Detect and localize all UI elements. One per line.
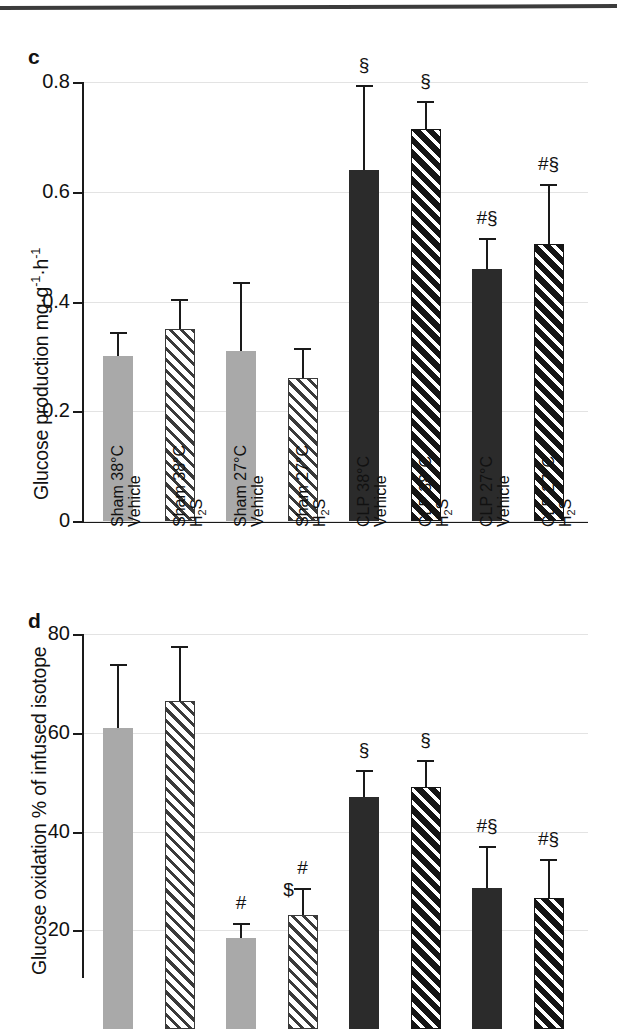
y-tick-label: 0.4 — [42, 290, 70, 313]
error-bar — [486, 846, 488, 888]
error-bar-cap — [417, 101, 434, 103]
panel-c-letter: c — [28, 46, 40, 67]
error-bar — [179, 646, 181, 700]
significance-mark: § — [359, 55, 370, 74]
x-tick-label-line2: Vehicle — [249, 445, 266, 527]
bar — [165, 701, 195, 1029]
bar — [226, 938, 256, 1029]
significance-mark-secondary: $ — [283, 880, 294, 899]
error-bar — [179, 299, 181, 329]
gridline — [84, 82, 588, 83]
gridline — [84, 192, 588, 193]
y-tick-label: 0 — [59, 509, 70, 532]
y-tick-mark — [73, 930, 82, 932]
error-bar-cap — [294, 888, 311, 890]
y-tick-label: 20 — [48, 918, 70, 941]
gridline — [84, 733, 588, 734]
x-tick-label-line2: Vehicle — [495, 456, 512, 527]
bar — [472, 888, 502, 1029]
error-bar — [548, 184, 550, 244]
y-tick-label: 0.8 — [42, 70, 70, 93]
y-tick-mark — [73, 82, 82, 84]
header-rule — [0, 4, 617, 10]
x-tick-label-line2: Vehicle — [372, 456, 389, 527]
x-tick-label-line2: H2S — [434, 456, 455, 527]
error-bar-cap — [417, 760, 434, 762]
error-bar-cap — [356, 85, 373, 87]
bar — [411, 787, 441, 1029]
error-bar-cap — [171, 299, 188, 301]
x-tick-label-line1: CLP 38°C — [417, 456, 434, 527]
significance-mark: #§ — [476, 816, 497, 835]
error-bar-cap — [233, 923, 250, 925]
error-bar — [486, 238, 488, 268]
x-tick-label-line1: Sham 38°C — [109, 445, 126, 527]
error-bar-cap — [479, 238, 496, 240]
y-tick-mark — [73, 192, 82, 194]
panel-c-y-axis-exp-1: -1 — [28, 276, 43, 287]
significance-mark: #§ — [476, 208, 497, 227]
gridline — [84, 930, 588, 931]
error-bar — [302, 348, 304, 378]
error-bar — [363, 770, 365, 797]
panel-d-plot-area: 20406080 ##$§§#§#§ — [82, 634, 590, 978]
panel-c-y-axis-label-text: Glucose production mg·g — [30, 287, 52, 500]
panel-d-y-axis-line — [82, 634, 84, 978]
y-tick-label: 0.2 — [42, 399, 70, 422]
y-tick-mark — [73, 302, 82, 304]
panel-d: d Glucose oxidation % of infused isotope… — [0, 600, 617, 978]
x-tick-label-line2: H2S — [311, 445, 332, 527]
panel-c-y-axis-label-mid: ·h — [30, 259, 52, 276]
error-bar-cap — [540, 859, 557, 861]
panel-c-y-axis-label: Glucose production mg·g-1·h-1 — [28, 248, 53, 500]
significance-mark: # — [297, 858, 308, 877]
error-bar — [425, 760, 427, 787]
bar — [103, 728, 133, 1029]
x-tick-label-line2: Vehicle — [126, 445, 143, 527]
gridline — [84, 634, 588, 635]
error-bar — [240, 923, 242, 938]
error-bar-cap — [110, 332, 127, 334]
y-tick-label: 0.6 — [42, 180, 70, 203]
bar — [349, 797, 379, 1029]
error-bar — [302, 888, 304, 915]
gridline — [84, 411, 588, 412]
significance-mark: § — [420, 71, 431, 90]
x-tick-label-line1: Sham 38°C — [171, 445, 188, 527]
x-tick-label-line1: Sham 27°C — [232, 445, 249, 527]
x-tick-label-line1: Sham 27°C — [294, 445, 311, 527]
error-bar — [425, 101, 427, 128]
significance-mark: § — [359, 740, 370, 759]
error-bar — [363, 85, 365, 170]
panel-c-y-axis-exp-2: -1 — [28, 248, 43, 259]
x-tick-label-line1: CLP 27°C — [478, 456, 495, 527]
error-bar — [117, 332, 119, 357]
y-tick-mark — [73, 411, 82, 413]
bar — [534, 898, 564, 1029]
bar — [288, 915, 318, 1029]
error-bar-cap — [110, 664, 127, 666]
error-bar-cap — [356, 770, 373, 772]
x-tick-label-line1: CLP 38°C — [355, 456, 372, 527]
error-bar-cap — [233, 282, 250, 284]
gridline — [84, 832, 588, 833]
x-tick-label-line1: CLP 27°C — [540, 456, 557, 527]
panel-d-letter: d — [28, 610, 41, 631]
panel-c: c Glucose production mg·g-1·h-1 00.20.40… — [0, 30, 617, 600]
significance-mark: #§ — [538, 829, 559, 848]
panel-c-plot-area: 00.20.40.60.8 §§#§#§ — [82, 82, 590, 523]
panel-c-y-axis-line — [82, 82, 84, 523]
error-bar-cap — [171, 646, 188, 648]
y-tick-mark — [73, 634, 82, 636]
error-bar — [117, 664, 119, 728]
y-tick-mark — [73, 521, 82, 523]
y-tick-label: 40 — [48, 820, 70, 843]
error-bar-cap — [540, 184, 557, 186]
error-bar-cap — [294, 348, 311, 350]
significance-mark: # — [236, 893, 247, 912]
error-bar-cap — [479, 846, 496, 848]
y-tick-mark — [73, 733, 82, 735]
y-tick-mark — [73, 832, 82, 834]
error-bar — [548, 859, 550, 899]
significance-mark: § — [420, 730, 431, 749]
